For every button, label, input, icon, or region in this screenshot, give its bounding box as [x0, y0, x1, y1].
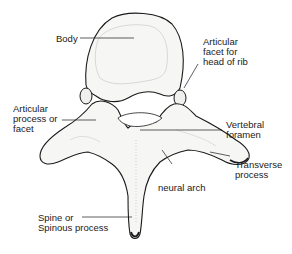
vertebra-diagram: Body Articular facet for head of rib Art… — [0, 0, 292, 254]
label-transverse-process: Transverse process — [235, 160, 282, 180]
vertebral-body-shape — [86, 13, 184, 101]
label-spinous-process: Spine or Spinous process — [38, 213, 108, 233]
label-body: Body — [56, 34, 78, 44]
label-articular-process: Articular process or facet — [13, 104, 57, 134]
rib-facet-left — [80, 88, 92, 104]
label-rib-facet: Articular facet for head of rib — [203, 37, 248, 67]
label-vertebral-foramen: Vertebral foramen — [226, 120, 264, 140]
label-neural-arch: neural arch — [158, 183, 206, 193]
